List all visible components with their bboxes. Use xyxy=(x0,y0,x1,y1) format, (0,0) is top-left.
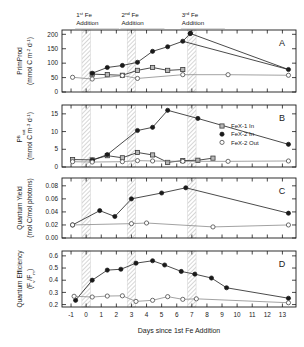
data-point xyxy=(113,214,117,218)
x-axis: -1012345678910111213Days since 1st Fe Ad… xyxy=(68,311,286,335)
panel-B: 051015B xyxy=(51,105,296,170)
panel-D: 0.20.30.40.50.6D xyxy=(49,251,296,308)
panel-letter: C xyxy=(279,186,286,196)
data-point xyxy=(286,142,290,146)
data-point xyxy=(209,276,213,280)
data-point xyxy=(150,153,154,157)
y-tick-label: 0.08 xyxy=(46,182,59,189)
data-point xyxy=(286,159,290,163)
y-tick-label: 0.3 xyxy=(49,289,58,296)
x-tick-label: 11 xyxy=(249,311,256,318)
svg-text:Quantum Yield: Quantum Yield xyxy=(16,186,24,230)
x-tick-label: 12 xyxy=(264,311,272,318)
data-point xyxy=(150,65,154,69)
data-point xyxy=(105,268,109,272)
data-point xyxy=(120,160,124,164)
data-point xyxy=(129,197,133,201)
annotation-ordinal: 1st Fe xyxy=(76,11,92,19)
y-tick-label: 0.6 xyxy=(49,252,58,259)
data-point xyxy=(135,159,139,163)
data-point xyxy=(181,67,185,71)
plot-frame xyxy=(62,105,296,167)
x-tick-label: 4 xyxy=(145,311,149,318)
data-point xyxy=(135,68,139,72)
y-tick-label: 0.02 xyxy=(46,221,59,228)
data-point xyxy=(181,297,185,301)
x-tick-label: -1 xyxy=(68,311,74,318)
data-point xyxy=(286,301,290,305)
data-point xyxy=(166,108,170,112)
y-tick-label: 0.04 xyxy=(46,208,59,215)
data-point xyxy=(134,261,138,265)
data-point xyxy=(224,286,228,290)
data-point xyxy=(286,211,290,215)
fe-addition-band-1 xyxy=(82,251,90,307)
data-point xyxy=(98,209,102,213)
data-point xyxy=(150,259,154,263)
data-point xyxy=(166,45,170,49)
data-point xyxy=(211,225,215,229)
y-axis-label-d: Quantum Efficiency(Fv/Fm) xyxy=(16,250,36,308)
data-point xyxy=(226,73,230,77)
data-point xyxy=(211,156,215,160)
data-point xyxy=(105,73,109,77)
annotation-line2: Addition xyxy=(121,19,144,26)
annotation-line2: Addition xyxy=(76,19,99,26)
panel-letter: D xyxy=(279,259,286,269)
data-point xyxy=(166,295,170,299)
data-point xyxy=(226,159,230,163)
y-axis-label-a: PrimProd(mmol C m-2 d-1) xyxy=(16,37,34,85)
x-tick-label: 0 xyxy=(84,311,88,318)
x-tick-label: 7 xyxy=(190,311,194,318)
y-tick-label: 50 xyxy=(51,74,59,81)
data-point xyxy=(90,71,94,75)
data-point xyxy=(150,125,154,129)
svg-text:PBsat: PBsat xyxy=(16,129,26,143)
plot-frame xyxy=(62,30,296,92)
x-tick-label: 8 xyxy=(205,311,209,318)
x-tick-label: 13 xyxy=(279,311,287,318)
y-tick-label: 0 xyxy=(54,88,58,95)
data-point xyxy=(179,269,183,273)
fe-addition-annotation-2: 2nd FeAddition xyxy=(120,11,164,29)
legend-label: FeX-1 In xyxy=(231,123,254,129)
data-point xyxy=(70,160,74,164)
y-tick-label: 0.06 xyxy=(46,195,59,202)
y-tick-label: 100 xyxy=(47,59,58,66)
data-point xyxy=(196,116,200,120)
fe-addition-band-3 xyxy=(188,178,196,238)
svg-text:PrimProd: PrimProd xyxy=(16,47,23,75)
x-tick-label: 3 xyxy=(130,311,134,318)
data-point xyxy=(144,221,148,225)
panel-C: 0.000.020.040.060.08C xyxy=(46,178,296,241)
series-line xyxy=(73,188,289,225)
data-point xyxy=(150,49,154,53)
y-tick-label: 0.4 xyxy=(49,276,58,283)
y-tick-label: 0.2 xyxy=(49,301,58,308)
data-point xyxy=(193,272,197,276)
data-point xyxy=(286,223,290,227)
data-point xyxy=(105,65,109,69)
data-point xyxy=(181,73,185,77)
svg-text:Quantum Efficiency: Quantum Efficiency xyxy=(16,250,24,308)
x-tick-label: 9 xyxy=(220,311,224,318)
data-point xyxy=(166,68,170,72)
x-tick-label: 6 xyxy=(175,311,179,318)
data-point xyxy=(73,298,77,302)
fe-addition-band-1 xyxy=(82,178,90,238)
fe-addition-band-3 xyxy=(188,105,196,167)
data-point xyxy=(120,73,124,77)
data-point xyxy=(129,222,133,226)
legend-label: FeX-2 In xyxy=(231,131,254,137)
data-point xyxy=(119,267,123,271)
data-point xyxy=(196,158,200,162)
x-tick-label: 2 xyxy=(115,311,119,318)
y-tick-label: 0 xyxy=(54,163,58,170)
x-tick-label: 1 xyxy=(99,311,103,318)
data-point xyxy=(105,294,109,298)
fe-addition-band-2 xyxy=(127,105,135,167)
y-tick-label: 0.5 xyxy=(49,264,58,271)
fe-addition-band-2 xyxy=(127,30,135,92)
svg-text:(mmol C m-2 d-1): (mmol C m-2 d-1) xyxy=(25,37,34,85)
y-tick-label: 10 xyxy=(51,128,59,135)
